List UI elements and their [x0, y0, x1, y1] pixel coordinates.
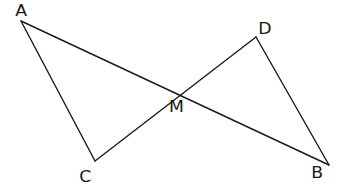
geometry-diagram: A D M C B [0, 0, 348, 186]
label-point-d: D [258, 22, 271, 37]
label-point-b: B [311, 166, 323, 181]
label-point-a: A [15, 4, 27, 19]
label-point-m: M [169, 100, 184, 115]
diagram-lines [0, 0, 348, 186]
segment-DB [256, 37, 329, 165]
label-point-c: C [79, 170, 91, 185]
segment-AC [21, 21, 95, 161]
segment-AB [21, 21, 329, 165]
